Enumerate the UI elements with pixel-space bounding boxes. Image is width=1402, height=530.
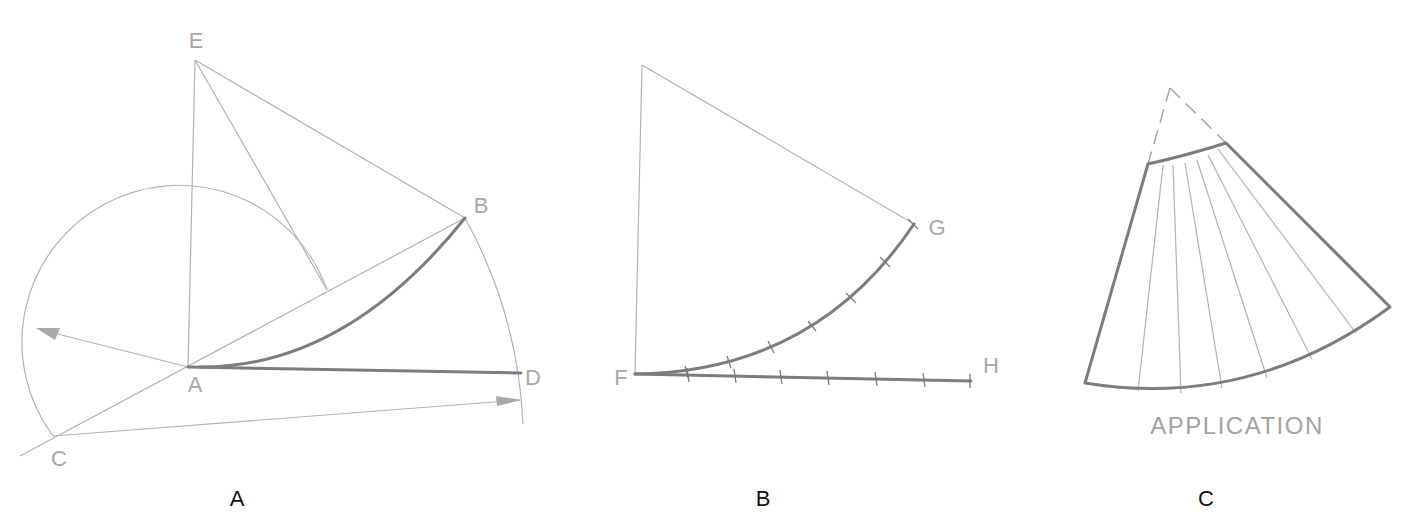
panel-a: E B A D C A [20,28,541,511]
curve-ticks [685,219,918,378]
panel-c: APPLICATION C [1085,88,1390,511]
label-d: D [525,365,541,390]
label-b: B [474,193,489,218]
arrow-c-right [53,400,520,436]
heavy-curve-a-b [200,218,465,367]
heavy-curve-f-g [635,224,914,374]
dash-right [1170,88,1226,143]
caption-a: A [230,486,245,511]
label-g: G [928,215,945,240]
line-c-b [20,218,465,456]
caption-b: B [756,486,771,511]
heavy-line-a-d [188,367,521,373]
line-apex-f [635,65,642,374]
label-h: H [983,353,999,378]
label-f: F [614,365,627,390]
arrow-a-left [38,329,188,367]
arc-center-a [22,185,327,436]
arrowhead-right-icon [496,396,522,406]
radial-lines [1138,149,1356,393]
label-c: C [51,446,67,471]
sector-outline [1085,143,1390,389]
arc-center-c [465,218,523,424]
label-a: A [188,372,203,397]
heavy-line-f-h [635,374,971,381]
diagram-canvas: E B A D C A [0,0,1402,530]
line-e-arc [195,60,327,290]
label-e: E [189,28,204,53]
line-e-b [195,60,465,218]
line-ticks [687,368,970,388]
panel-b: F G H B [614,65,999,511]
application-label: APPLICATION [1150,412,1323,439]
dash-left [1148,88,1170,164]
line-e-a [188,60,195,367]
line-apex-g [642,65,914,224]
caption-c: C [1198,486,1214,511]
arrowhead-left-icon [36,328,60,340]
